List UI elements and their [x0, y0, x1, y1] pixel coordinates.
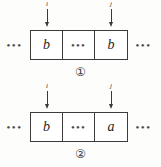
index-pointer-label-j-2: j — [104, 82, 118, 90]
tape-cell: a — [95, 113, 127, 141]
arrow-down-icon — [45, 104, 49, 109]
tape-cell: b — [31, 113, 63, 141]
arrow-down-icon — [45, 22, 49, 27]
cell-symbol: b — [43, 38, 50, 52]
cell-symbol: b — [108, 38, 115, 52]
caption-row-2: ② — [0, 144, 161, 164]
tape-leading-ellipsis-1: ••• — [0, 28, 30, 62]
tape-2: b ••• a — [30, 112, 128, 142]
index-pointer-i-1: i — [40, 0, 54, 28]
tape-row-2: ••• b ••• a ••• — [0, 110, 161, 144]
index-pointer-j-2: j — [104, 82, 118, 110]
tape-cell: ••• — [63, 31, 95, 59]
tape-cell: b — [95, 31, 127, 59]
cell-symbol: b — [43, 120, 50, 134]
arrow-down-icon — [109, 22, 113, 27]
index-pointer-label-i-1: i — [40, 0, 54, 8]
pointer-row-1: i j — [0, 0, 161, 28]
figure-root: i j ••• b ••• b — [0, 0, 161, 167]
cell-symbol: a — [108, 120, 115, 134]
pointer-row-2: i j — [0, 82, 161, 110]
tape-cell: b — [31, 31, 63, 59]
index-pointer-j-1: j — [104, 0, 118, 28]
index-pointer-i-2: i — [40, 82, 54, 110]
index-pointer-label-i-2: i — [40, 82, 54, 90]
figure-caption-number-2: ② — [75, 148, 86, 160]
cell-symbol: ••• — [71, 121, 86, 132]
arrow-down-icon — [109, 104, 113, 109]
tape-cell: ••• — [63, 113, 95, 141]
cell-symbol: ••• — [71, 39, 86, 50]
tape-leading-ellipsis-2: ••• — [0, 110, 30, 144]
tape-row-1: ••• b ••• b ••• — [0, 28, 161, 62]
caption-row-1: ① — [0, 62, 161, 82]
tape-diagram-2: i j ••• b ••• a — [0, 82, 161, 164]
index-pointer-label-j-1: j — [104, 0, 118, 8]
tape-1: b ••• b — [30, 30, 128, 60]
tape-diagram-1: i j ••• b ••• b — [0, 0, 161, 82]
figure-caption-number-1: ① — [75, 66, 86, 78]
tape-trailing-ellipsis-2: ••• — [128, 110, 158, 144]
tape-trailing-ellipsis-1: ••• — [128, 28, 158, 62]
